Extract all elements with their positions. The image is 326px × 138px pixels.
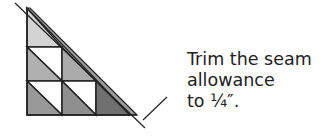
caption-line-1: Trim the seam — [187, 49, 312, 70]
leader-line — [143, 97, 167, 120]
caption-line-2: allowance — [187, 70, 312, 91]
trim-instruction-caption: Trim the seam allowance to ¼″. — [187, 49, 312, 112]
caption-line-3: to ¼″. — [187, 91, 312, 112]
